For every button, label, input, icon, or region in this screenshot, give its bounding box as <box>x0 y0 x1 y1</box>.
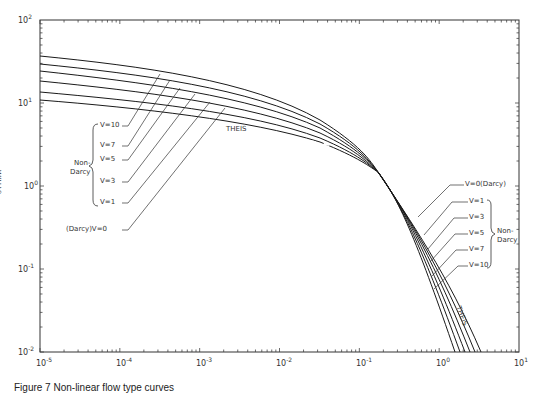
left-label-darcy-v0: (Darcy)V=0 <box>66 225 107 233</box>
left-label-v7: V=7 <box>100 141 115 149</box>
theis-label-upper: THEIS <box>226 125 246 133</box>
left-label-v1: V=1 <box>100 198 115 206</box>
right-label-v1: V=1 <box>469 197 484 205</box>
y-axis-label: W(U,V) <box>0 170 2 195</box>
right-label-v3: V=3 <box>469 213 484 221</box>
x-tick-label: 10-1 <box>356 356 372 368</box>
x-tick-label: 101 <box>514 356 528 368</box>
plot-frame <box>40 20 519 352</box>
x-tick-label: 100 <box>436 356 450 368</box>
left-label-v5: V=5 <box>100 155 115 163</box>
right-bracket-label: Non- <box>497 227 513 235</box>
y-tick-label: 10-1 <box>18 262 34 274</box>
curve-v7 <box>40 64 460 352</box>
x-tick-label: 10-4 <box>116 356 132 368</box>
y-tick-label: 100 <box>24 179 38 191</box>
right-leader-lines <box>418 185 468 289</box>
y-tick-label: 102 <box>18 13 32 25</box>
y-tick-label: 10-2 <box>18 345 34 357</box>
y-tick-label: 101 <box>18 96 32 108</box>
right-label-v0-darcy: V=0(Darcy) <box>465 180 506 188</box>
x-tick-label: 10-2 <box>276 356 292 368</box>
right-label-v10: V=10 <box>469 261 489 269</box>
right-bracket <box>487 200 495 268</box>
right-bracket-label-2: Darcy <box>497 236 517 244</box>
x-tick-label: 10-5 <box>36 356 52 368</box>
left-bracket-label-2: Darcy <box>70 168 90 176</box>
left-label-v10: V=10 <box>100 121 120 129</box>
axis-ticks <box>40 20 519 352</box>
right-label-v7: V=7 <box>469 245 484 253</box>
left-label-v3: V=3 <box>100 177 115 185</box>
left-bracket-label: Non- <box>74 159 90 167</box>
figure-caption: Figure 7 Non-linear flow type curves <box>14 382 174 393</box>
left-leader-lines <box>122 74 225 230</box>
right-label-v5: V=5 <box>469 229 484 237</box>
x-tick-label: 10-3 <box>196 356 212 368</box>
